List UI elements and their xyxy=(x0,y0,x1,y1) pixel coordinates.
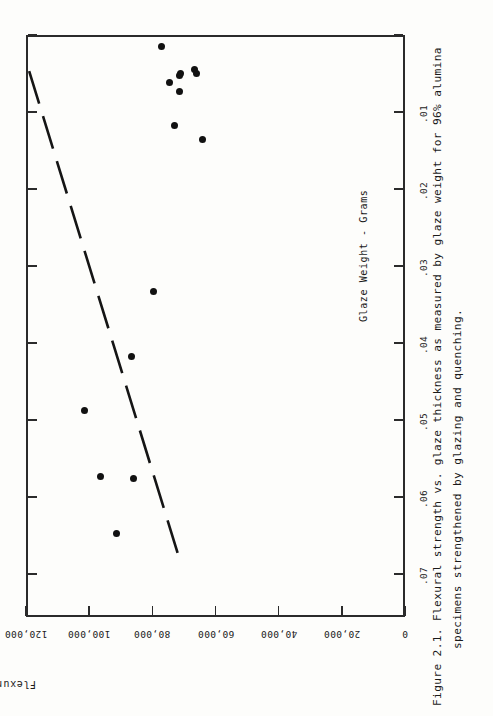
scan-bleed-artifact xyxy=(22,1,154,10)
caption-line-2: specimens strengthened by glazing and qu… xyxy=(448,36,468,649)
figure-number: Figure 2.1. xyxy=(431,628,444,706)
trend-line xyxy=(26,35,405,617)
flexural-strength-tick-label: 20,000 xyxy=(312,629,372,640)
flexural-strength-tick-label: 0 xyxy=(375,629,435,640)
flexural-strength-tick-label: 80,000 xyxy=(122,629,182,640)
figure-caption: Figure 2.1.Flexural strength vs. glaze t… xyxy=(428,36,468,706)
flexural-strength-tick-label: 60,000 xyxy=(186,629,246,640)
x-axis-title: Glaze Weight - Grams xyxy=(358,190,369,322)
plot-area: .01.02.03.04.05.06.07 020,00040,00060,00… xyxy=(26,35,405,617)
flexural-strength-tick-label: 100,000 xyxy=(59,629,119,640)
flexural-strength-tick-label: 40,000 xyxy=(249,629,309,640)
flexural-strength-tick-label: 120,000 xyxy=(0,629,56,640)
caption-line-1: Flexural strength vs. glaze thickness as… xyxy=(431,47,444,621)
y-axis-title: Flexural Strength - psi xyxy=(0,679,36,690)
